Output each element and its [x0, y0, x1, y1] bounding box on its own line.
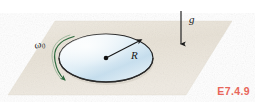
figure-container: g R ω0 E7.4.9 [0, 0, 258, 102]
figure-reference-label: E7.4.9 [217, 86, 250, 97]
radius-label: R [131, 50, 138, 61]
gravity-label: g [189, 14, 195, 25]
